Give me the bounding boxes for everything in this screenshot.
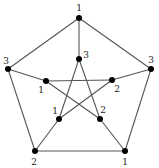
vertex-label-i2: 2 <box>100 105 106 115</box>
vertex-o0 <box>76 15 82 21</box>
vertex-i4 <box>43 78 49 84</box>
vertex-i1 <box>109 77 115 83</box>
vertex-o4 <box>5 66 11 72</box>
vertex-label-o0: 1 <box>76 3 82 13</box>
vertex-label-o4: 3 <box>3 56 9 66</box>
vertex-label-o1: 3 <box>148 55 154 65</box>
edge-o4-i4 <box>8 69 46 81</box>
edge-o1-o2 <box>125 69 151 151</box>
vertex-label-i1: 2 <box>114 84 120 94</box>
vertex-i3 <box>56 116 62 122</box>
edge-o0-o1 <box>79 18 151 69</box>
edge-o4-o0 <box>8 18 79 69</box>
vertex-i2 <box>97 116 103 122</box>
edge-i4-i1 <box>46 80 112 81</box>
edge-i0-i3 <box>59 59 79 119</box>
vertex-label-i0: 3 <box>83 50 89 60</box>
edges-group <box>8 18 151 151</box>
edge-o3-o4 <box>8 69 35 151</box>
vertex-label-o2: 1 <box>122 157 128 167</box>
vertex-o3 <box>32 148 38 154</box>
edge-i0-i2 <box>79 59 100 119</box>
vertex-i0 <box>76 56 82 62</box>
vertex-o2 <box>122 148 128 154</box>
vertex-label-o3: 2 <box>31 157 37 167</box>
edge-o2-i2 <box>100 119 125 151</box>
vertex-label-i4: 1 <box>38 85 44 95</box>
vertex-label-i3: 1 <box>52 106 58 116</box>
edge-o3-i3 <box>35 119 59 151</box>
petersen-graph-diagram: 1312332211 <box>0 0 159 168</box>
vertex-o1 <box>148 66 154 72</box>
edge-o1-i1 <box>112 69 151 80</box>
